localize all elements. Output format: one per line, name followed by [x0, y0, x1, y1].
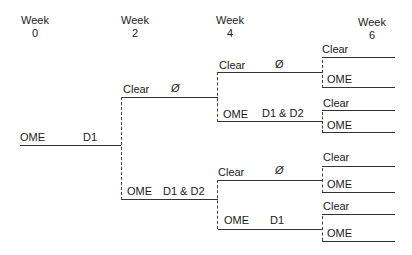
- week4-c-line: [218, 180, 322, 181]
- week-number: 4: [210, 27, 250, 40]
- week4-d-treatment: D1: [270, 214, 284, 226]
- week0-state: OME: [20, 131, 45, 143]
- week6-line: [322, 87, 395, 88]
- week2-split-connector: [121, 97, 122, 200]
- week2-upper-line: [122, 97, 218, 98]
- week-6-header: Week 6: [352, 16, 392, 42]
- week6-line: [322, 241, 395, 242]
- week6-line: [322, 132, 395, 133]
- week6-connector-1: [322, 60, 323, 88]
- week4-b-line: [218, 121, 322, 122]
- week4-a-line: [218, 72, 322, 73]
- week0-branch-line: [20, 145, 121, 146]
- week-label: Week: [210, 14, 250, 27]
- week6-outcome: OME: [327, 227, 352, 239]
- week6-line: [322, 166, 395, 167]
- week-label: Week: [115, 14, 155, 27]
- week6-line: [322, 110, 395, 111]
- week2-upper-state: Clear: [123, 83, 149, 95]
- week-number: 6: [352, 29, 392, 42]
- week4-d-line: [218, 229, 322, 230]
- week6-outcome: OME: [327, 119, 352, 131]
- week4-b-treatment: D1 & D2: [262, 107, 304, 119]
- week6-outcome: Clear: [323, 97, 349, 109]
- week6-line: [322, 57, 395, 58]
- week-2-header: Week 2: [115, 14, 155, 40]
- week2-upper-treatment: Ø: [171, 82, 180, 94]
- week4-b-state: OME: [223, 108, 248, 120]
- week6-connector-4: [322, 216, 323, 241]
- week2-lower-line: [122, 199, 218, 200]
- week-4-header: Week 4: [210, 14, 250, 40]
- week4-lower-connector: [217, 180, 218, 229]
- week6-line: [322, 192, 395, 193]
- week4-c-state: Clear: [218, 166, 244, 178]
- week-number: 2: [115, 27, 155, 40]
- week6-outcome: OME: [327, 73, 352, 85]
- week6-outcome: Clear: [323, 200, 349, 212]
- week6-line: [322, 214, 395, 215]
- week-0-header: Week 0: [15, 14, 55, 40]
- week-label: Week: [352, 16, 392, 29]
- week6-connector-2: [322, 112, 323, 133]
- week6-outcome: OME: [327, 178, 352, 190]
- week4-a-treatment: Ø: [275, 58, 284, 70]
- week-label: Week: [15, 14, 55, 27]
- week4-d-state: OME: [224, 214, 249, 226]
- week4-upper-connector: [217, 72, 218, 122]
- week6-outcome: Clear: [322, 43, 348, 55]
- week2-lower-treatment: D1 & D2: [163, 185, 205, 197]
- week2-lower-state: OME: [127, 185, 152, 197]
- week-number: 0: [15, 27, 55, 40]
- week0-treatment: D1: [83, 131, 97, 143]
- week4-a-state: Clear: [219, 59, 245, 71]
- week4-c-treatment: Ø: [275, 164, 284, 176]
- week6-connector-3: [322, 168, 323, 193]
- week6-outcome: Clear: [323, 151, 349, 163]
